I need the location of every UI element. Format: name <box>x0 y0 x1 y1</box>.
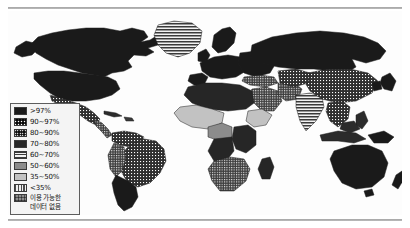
legend-label-no-data: 이용 가능한 <box>30 194 60 202</box>
legend-label-90-97: 90~97% <box>30 118 59 126</box>
top-rule <box>8 7 402 9</box>
legend-label-60-70: 60~70% <box>30 151 59 159</box>
legend-item: 50~60% <box>14 161 77 171</box>
legend-item: <35% <box>14 183 77 193</box>
legend-label-50-60: 50~60% <box>30 162 59 170</box>
legend-item-no-data: 이용 가능한 <box>14 194 77 202</box>
legend-item: 35~50% <box>14 172 77 182</box>
region-korea <box>372 81 382 91</box>
legend-swatch-80-90 <box>14 129 27 137</box>
legend-label-lt35: <35% <box>30 184 51 192</box>
legend-label-80-90: 80~90% <box>30 129 59 137</box>
legend-swatch-60-70 <box>14 151 27 159</box>
legend-item: 70~80% <box>14 139 77 149</box>
legend-label-35-50: 35~50% <box>30 173 59 181</box>
legend-swatch-lt35 <box>14 184 27 192</box>
legend-item: 60~70% <box>14 150 77 160</box>
bottom-rule <box>8 219 402 221</box>
legend-label-70-80: 70~80% <box>30 140 59 148</box>
legend-item: >97% <box>14 106 77 116</box>
legend-label-gt97: >97% <box>30 107 51 115</box>
legend-swatch-35-50 <box>14 173 27 181</box>
figure-root: >97% 90~97% 80~90% 70~80% 60~70% 50~60% … <box>0 0 410 228</box>
legend-swatch-gt97 <box>14 107 27 115</box>
map-legend: >97% 90~97% 80~90% 70~80% 60~70% 50~60% … <box>10 103 80 215</box>
legend-swatch-50-60 <box>14 162 27 170</box>
legend-item: 80~90% <box>14 128 77 138</box>
legend-label-no-data-line2: 데이터 없음 <box>14 203 77 212</box>
legend-swatch-70-80 <box>14 140 27 148</box>
legend-item: 90~97% <box>14 117 77 127</box>
legend-swatch-no-data <box>14 194 27 202</box>
legend-swatch-90-97 <box>14 118 27 126</box>
